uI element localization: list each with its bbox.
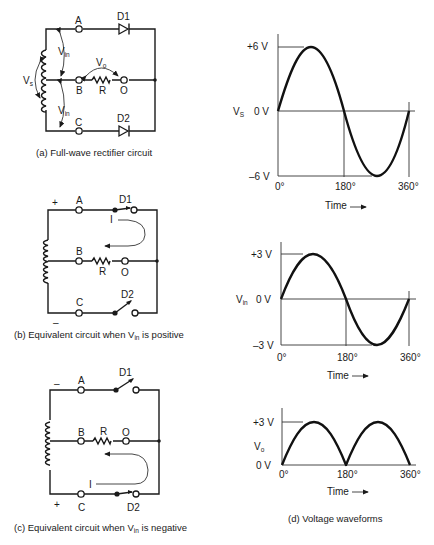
current-i-label: I [89,479,92,490]
sine-curve [278,47,409,176]
transformer-coil-icon [42,50,47,112]
terminal-b-label: B [76,246,83,257]
d2-label: D2 [121,289,134,300]
resistor-r-label: R [99,85,106,96]
d1-label: D1 [119,367,132,378]
x-tick-360: 360° [400,352,421,363]
y-label-vin: Vin [236,294,248,306]
resistor-icon [92,77,110,83]
resistor-icon [92,258,110,264]
x-tick-180: 180° [335,181,356,192]
d1-label: D1 [117,11,130,22]
caption-c: (c) Equivalent circuit when Vin is negat… [14,522,187,534]
terminal-o-label: O [120,85,128,96]
y-tick-pos3: +3 V [253,417,274,428]
y-tick-pos6: +6 V [247,41,268,52]
x-tick-180: 180° [337,352,358,363]
rectified-curve [282,422,410,465]
plot-vo-waveform: +3 V 0 V Vo 0° 180° 360° Time (d) Voltag… [253,408,421,524]
y-tick-0: 0 V [256,294,271,305]
current-arrow-icon [96,454,148,484]
terminal-a-label: A [76,195,83,206]
x-tick-0: 0° [279,469,289,480]
terminal-c-label: C [76,297,83,308]
y-tick-neg6: –6 V [249,171,270,182]
circuit-c-vin-negative: I – + A D1 B R O C D2 (c) Equivalent cir… [14,367,187,534]
minus-sign: – [54,378,60,389]
y-label-vs: VS [233,106,245,118]
vin-bottom-label: Vin [58,105,70,117]
terminal-a-label: A [78,375,85,386]
d2-label: D2 [117,113,130,124]
resistor-r-label: R [99,266,106,277]
minus-sign: – [53,317,59,328]
resistor-r-label: R [100,426,107,437]
diode-d2-icon [119,126,129,137]
y-label-vo: Vo [254,441,265,453]
terminal-o-label: O [121,267,129,278]
caption-a: (a) Full-wave rectifier circuit [36,147,152,158]
terminal-c-label: C [75,117,82,128]
circuit-b-vin-positive: I + – A D1 B R O C D2 (b) Equivalent cir… [14,194,184,341]
switch-d1-closed-icon [112,206,137,213]
x-tick-0: 0° [277,352,287,363]
switch-d1-open-icon [113,378,139,393]
resistor-icon [93,438,111,444]
current-i-label: I [110,214,113,225]
vo-label: Vo [96,57,107,69]
figure: A D1 B R O C D2 Vin Vin Vs Vo (a) Full-w… [0,0,434,545]
caption-b: (b) Equivalent circuit when Vin is posit… [14,329,184,341]
y-tick-pos3: +3 V [251,249,272,260]
x-tick-360: 360° [400,469,421,480]
sine-curve [281,254,409,345]
plus-sign: + [52,197,58,208]
caption-d: (d) Voltage waveforms [288,513,383,524]
x-tick-180: 180° [337,469,358,480]
vs-label: Vs [23,75,34,87]
d1-label: D1 [119,194,132,205]
circuit-a-full-wave-rectifier: A D1 B R O C D2 Vin Vin Vs Vo (a) Full-w… [23,11,157,158]
y-tick-0: 0 V [254,106,269,117]
plot-vs-waveform: +6 V 0 V –6 V VS 0° 180° 360° Time [233,34,419,211]
terminal-a-label: A [75,15,82,26]
x-tick-360: 360° [398,181,419,192]
vin-top-label: Vin [58,46,70,58]
x-axis-label: Time [327,370,349,381]
plot-vin-waveform: +3 V 0 V –3 V Vin 0° 180° 360° Time [236,242,421,381]
switch-d2-closed-icon [114,490,139,497]
switch-d2-open-icon [112,300,138,316]
x-axis-label: Time [325,200,347,211]
x-tick-0: 0° [275,181,285,192]
terminal-b-label: B [76,85,83,96]
y-tick-0: 0 V [256,460,271,471]
terminal-o-label: O [122,427,130,438]
terminal-b-label: B [78,427,85,438]
x-axis-label: Time [327,486,349,497]
d2-label: D2 [127,502,140,513]
y-tick-neg3: –3 V [253,340,274,351]
transformer-coil-icon [46,422,51,465]
plus-sign: + [54,499,60,510]
transformer-coil-icon [44,240,49,283]
diode-d1-icon [119,24,129,35]
terminal-c-label: C [78,502,85,513]
